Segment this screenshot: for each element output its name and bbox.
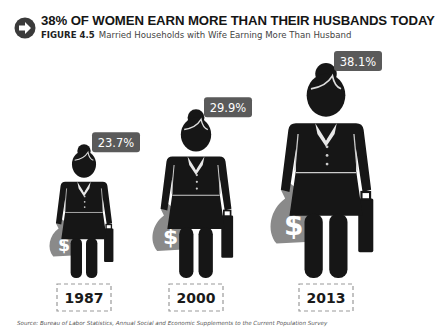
woman-figure-icon (281, 63, 371, 278)
value-label: 23.7% (92, 132, 140, 152)
briefcase-icon (104, 225, 113, 262)
woman-figure-icon (161, 109, 232, 278)
year-label-text: 1987 (65, 290, 104, 306)
value-label-text: 29.9% (210, 101, 247, 115)
briefcase-icon (221, 211, 233, 258)
woman-figure-icon (56, 144, 112, 278)
figure-2000: $ (153, 109, 234, 278)
briefcase-icon (358, 192, 373, 252)
year-label: 2000 (169, 284, 223, 311)
year-label: 2013 (299, 284, 353, 311)
value-label-text: 23.7% (98, 136, 135, 150)
year-label-text: 2013 (307, 290, 346, 306)
value-label: 38.1% (334, 51, 382, 71)
value-label-text: 38.1% (340, 55, 377, 69)
source-note: Source: Bureau of Labor Statistics, Annu… (17, 320, 327, 326)
year-label: 1987 (57, 284, 111, 311)
year-label-text: 2000 (177, 290, 216, 306)
value-label: 29.9% (204, 97, 252, 117)
figure-2013: $ (271, 63, 374, 278)
figure-1987: $ (50, 144, 114, 278)
